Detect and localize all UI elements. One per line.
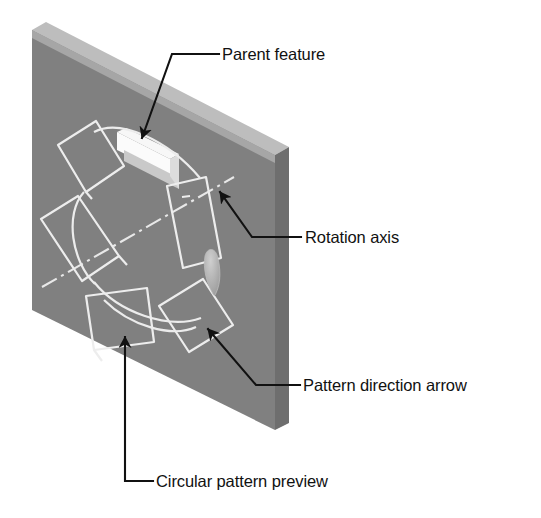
pattern-instance-detail (182, 196, 190, 197)
label-circular-pattern-preview: Circular pattern preview (156, 472, 328, 491)
label-pattern-direction-arrow: Pattern direction arrow (303, 376, 467, 395)
label-rotation-axis: Rotation axis (305, 228, 399, 247)
plate-side-face (275, 147, 289, 430)
circular-pattern-illustration (0, 0, 541, 518)
label-parent-feature: Parent feature (222, 45, 325, 64)
pattern-instance-detail (94, 350, 102, 361)
